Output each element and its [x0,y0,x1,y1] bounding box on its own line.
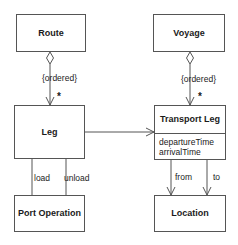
multiplicity-label: * [57,91,61,102]
class-route[interactable]: Route [16,14,86,52]
attribute-compartment: departureTime arrivalTime [155,133,225,157]
attribute-departure-time: departureTime [159,137,225,147]
role-label-load: load [34,173,50,183]
role-label-from: from [175,172,192,182]
constraint-label: {ordered} [181,74,216,84]
multiplicity-label: * [198,91,202,102]
class-port-operation[interactable]: Port Operation [14,195,85,232]
class-name: Route [17,28,85,38]
class-name: Port Operation [15,208,84,218]
role-label-to: to [213,172,220,182]
class-name: Transport Leg [155,114,225,124]
class-name: Voyage [154,28,224,38]
class-name: Location [155,208,225,218]
class-name: Leg [15,127,84,137]
role-label-unload: unload [64,173,90,183]
class-voyage[interactable]: Voyage [153,14,225,52]
aggregation-diamond-icon [187,52,194,64]
attribute-arrival-time: arrivalTime [159,147,225,157]
constraint-label: {ordered} [42,73,77,83]
aggregation-diamond-icon [47,52,54,64]
class-leg[interactable]: Leg [14,105,85,159]
class-location[interactable]: Location [154,195,226,232]
class-transport-leg[interactable]: Transport Leg departureTime arrivalTime [154,105,226,160]
